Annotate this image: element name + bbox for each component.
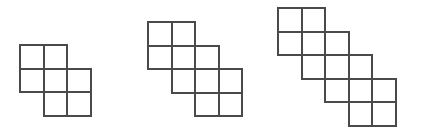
- grid-square: [20, 69, 44, 93]
- grid-square: [20, 45, 44, 69]
- grid-square: [349, 102, 373, 126]
- grid-square: [302, 32, 326, 56]
- grid-square: [195, 93, 219, 117]
- grid-square: [219, 93, 243, 117]
- grid-square: [325, 32, 349, 56]
- grid-square: [44, 92, 68, 116]
- grid-square: [44, 69, 68, 93]
- figures-svg: [0, 0, 421, 138]
- grid-square: [195, 69, 219, 93]
- grid-square: [148, 46, 172, 70]
- grid-square: [67, 92, 91, 116]
- grid-square: [325, 55, 349, 79]
- grid-square: [302, 8, 326, 32]
- grid-square: [219, 69, 243, 93]
- grid-square: [302, 55, 326, 79]
- grid-square: [372, 102, 396, 126]
- grid-square: [172, 46, 196, 70]
- grid-square: [349, 55, 373, 79]
- figure-3: [278, 8, 396, 126]
- figure-sequence-canvas: [0, 0, 421, 138]
- grid-square: [67, 69, 91, 93]
- grid-square: [278, 32, 302, 56]
- grid-square: [278, 8, 302, 32]
- grid-square: [172, 22, 196, 46]
- grid-square: [148, 22, 172, 46]
- grid-square: [172, 69, 196, 93]
- grid-square: [195, 46, 219, 70]
- figure-1: [20, 45, 91, 116]
- grid-square: [44, 45, 68, 69]
- grid-square: [325, 79, 349, 103]
- figure-2: [148, 22, 242, 116]
- grid-square: [349, 79, 373, 103]
- grid-square: [372, 79, 396, 103]
